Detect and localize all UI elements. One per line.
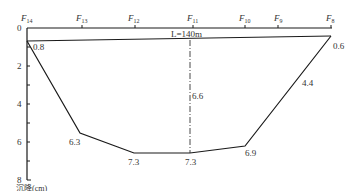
station-label-f9: F9	[273, 13, 283, 24]
y-tick-6: 6	[17, 137, 22, 147]
y-tick-2: 2	[17, 61, 22, 71]
station-label-f11: F11	[186, 13, 198, 24]
value-label-f10: 6.9	[245, 148, 257, 158]
station-label-f14: F14	[20, 13, 33, 24]
station-label-f12: F12	[127, 13, 140, 24]
station-label-f8: F8	[325, 13, 335, 24]
value-label-f14: 0.8	[33, 42, 45, 52]
value-label-f9: 4.4	[302, 78, 314, 88]
settlement-diagram: F14 F13 F12 F11 F10 F9 F8 L=140m 0 2 4 6…	[0, 0, 357, 191]
value-label-f13: 6.3	[69, 137, 81, 147]
y-tick-4: 4	[17, 99, 22, 109]
station-label-f13: F13	[75, 13, 88, 24]
centerline-label: 6.6	[192, 91, 204, 101]
station-label-f10: F10	[238, 13, 251, 24]
value-label-f12: 7.3	[128, 157, 140, 167]
y-axis-label: 沉降(cm)	[16, 183, 47, 191]
settlement-profile	[27, 36, 331, 153]
value-label-f11: 7.3	[185, 157, 197, 167]
value-label-f8: 0.6	[333, 41, 345, 51]
y-tick-0: 0	[17, 23, 22, 33]
length-label: L=140m	[171, 29, 202, 39]
